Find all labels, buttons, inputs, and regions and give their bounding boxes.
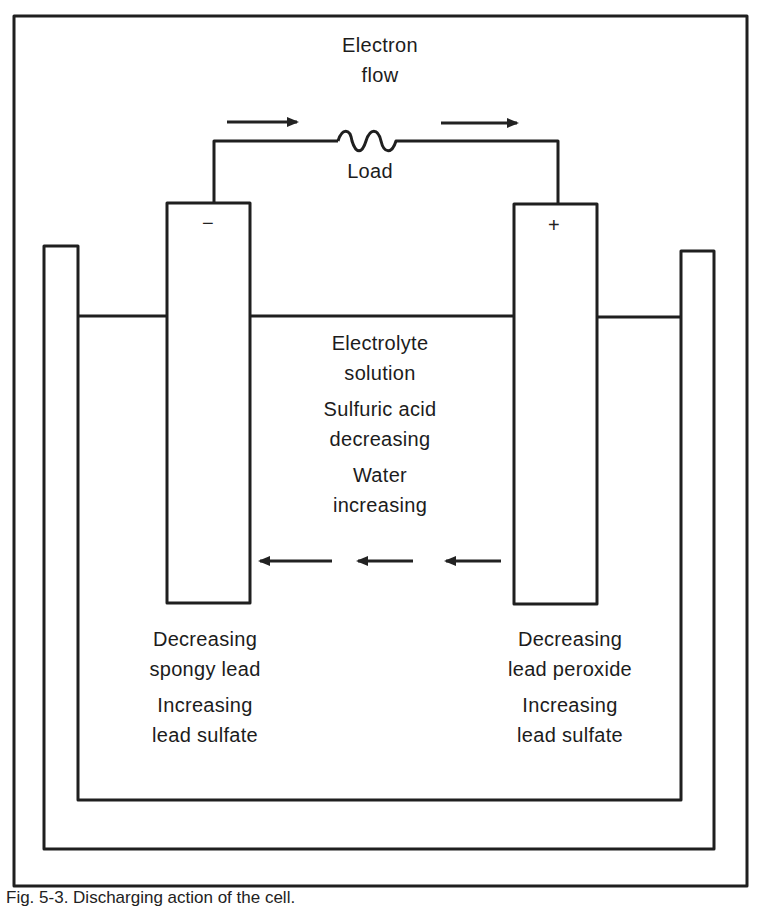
sulfuric-acid-line2: decreasing (280, 426, 480, 452)
positive-plate-labels: Decreasing lead peroxide Increasing lead… (470, 626, 670, 748)
positive-plate-line2: lead peroxide (470, 656, 670, 682)
electron-flow-label: Electron flow (300, 32, 460, 88)
load-resistor-icon (338, 131, 402, 151)
negative-plate (167, 203, 250, 603)
electron-flow-label-line1: Electron (300, 32, 460, 58)
negative-plate-line3: Increasing (120, 692, 290, 718)
negative-plate-labels: Decreasing spongy lead Increasing lead s… (120, 626, 290, 748)
positive-terminal-sign: + (548, 214, 560, 237)
positive-plate (514, 204, 597, 604)
positive-plate-line3: Increasing (470, 692, 670, 718)
load-label: Load (320, 158, 420, 184)
electron-flow-label-line2: flow (300, 62, 460, 88)
electrolyte-line2: solution (280, 360, 480, 386)
electrolyte-label: Electrolyte solution Sulfuric acid decre… (280, 330, 480, 518)
electrolyte-line1: Electrolyte (280, 330, 480, 356)
water-line2: increasing (280, 492, 480, 518)
negative-plate-line1: Decreasing (120, 626, 290, 652)
external-wire-right (402, 141, 558, 204)
negative-plate-line2: spongy lead (120, 656, 290, 682)
negative-plate-line4: lead sulfate (120, 722, 290, 748)
negative-terminal-sign: − (202, 212, 214, 235)
positive-plate-line1: Decreasing (470, 626, 670, 652)
sulfuric-acid-line1: Sulfuric acid (280, 396, 480, 422)
water-line1: Water (280, 462, 480, 488)
positive-plate-line4: lead sulfate (470, 722, 670, 748)
figure-caption: Fig. 5-3. Discharging action of the cell… (6, 888, 295, 908)
